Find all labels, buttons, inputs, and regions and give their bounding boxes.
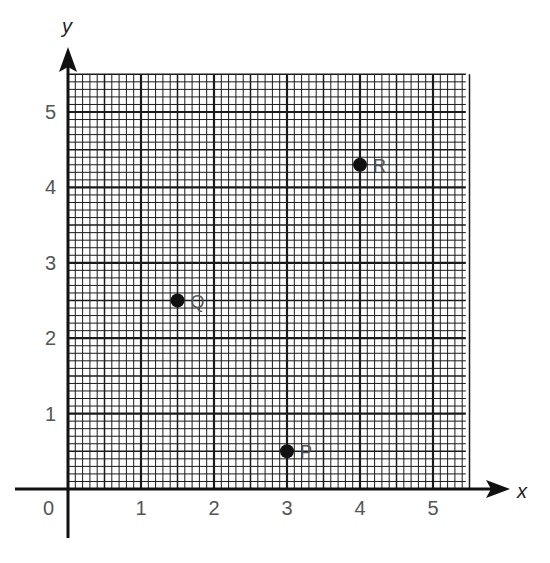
coordinate-graph: x y 0 12345 12345 PQR — [0, 0, 550, 563]
y-tick-label: 4 — [45, 176, 56, 198]
origin-label: 0 — [43, 497, 54, 519]
y-tick-label: 2 — [45, 327, 56, 349]
point-marker-icon — [171, 294, 185, 308]
y-tick-label: 5 — [45, 101, 56, 123]
point-label: Q — [191, 292, 205, 312]
x-tick-label: 5 — [427, 497, 438, 519]
x-tick-labels: 12345 — [135, 497, 438, 519]
data-points: PQR — [171, 156, 387, 463]
y-axis-label: y — [60, 15, 73, 37]
point-marker-icon — [353, 158, 367, 172]
y-tick-label: 1 — [45, 403, 56, 425]
y-tick-labels: 12345 — [45, 101, 56, 425]
graph-paper-grid — [68, 74, 470, 489]
x-tick-label: 3 — [281, 497, 292, 519]
point-label: P — [300, 442, 312, 462]
y-tick-label: 3 — [45, 252, 56, 274]
x-tick-label: 1 — [135, 497, 146, 519]
point-marker-icon — [280, 444, 294, 458]
point-label: R — [373, 156, 386, 176]
x-tick-label: 2 — [208, 497, 219, 519]
x-tick-label: 4 — [354, 497, 365, 519]
x-axis-label: x — [516, 480, 528, 502]
